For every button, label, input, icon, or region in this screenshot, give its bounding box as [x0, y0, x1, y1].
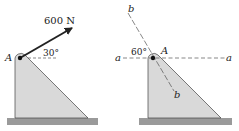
angle-label-30: 30°: [43, 48, 59, 58]
axis-label-a-right: a: [226, 52, 232, 63]
pin-a-right: [151, 56, 155, 60]
point-label-a-right: A: [160, 45, 168, 56]
statics-diagram: 600 N 30° A a a b b 60° A: [0, 0, 239, 131]
ground-left: [7, 118, 98, 125]
left-figure: 600 N 30° A: [4, 15, 98, 125]
point-label-a-left: A: [4, 52, 12, 63]
pin-a-left: [18, 56, 22, 60]
bracket-left: [15, 53, 88, 118]
right-figure: a a b b 60° A: [115, 3, 232, 125]
bracket-right: [148, 53, 221, 118]
angle-label-60: 60°: [131, 47, 147, 57]
axis-label-b-top: b: [128, 3, 134, 14]
axis-label-a-left: a: [115, 52, 121, 63]
force-label: 600 N: [44, 15, 75, 26]
ground-right: [139, 118, 232, 125]
axis-label-b-bottom: b: [174, 89, 180, 100]
